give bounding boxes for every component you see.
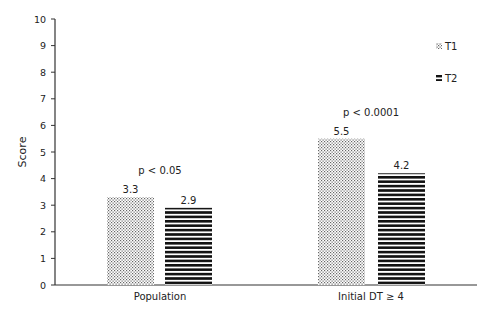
value-label: 5.5 [334, 126, 350, 137]
y-tick-label: 7 [40, 93, 46, 104]
y-tick-label: 5 [40, 147, 46, 158]
legend-t1-label: T1 [444, 41, 457, 52]
bar-chart: 012345678910 3.32.9Populationp < 0.055.5… [0, 0, 499, 313]
bar-t1 [107, 197, 154, 285]
y-tick-label: 8 [40, 67, 46, 78]
y-axis: 012345678910 [34, 14, 55, 291]
bars [107, 139, 425, 285]
value-label: 4.2 [394, 160, 410, 171]
bar-t1 [318, 139, 365, 285]
y-tick-label: 3 [40, 200, 46, 211]
y-axis-label: Score [16, 136, 29, 167]
legend-t1-swatch [436, 43, 442, 49]
bar-t2 [165, 208, 212, 285]
category-label: Population [134, 291, 187, 302]
y-tick-label: 0 [40, 280, 46, 291]
legend-t2-label: T2 [444, 73, 457, 84]
y-tick-label: 4 [40, 173, 46, 184]
category-label: Initial DT ≥ 4 [338, 291, 404, 302]
y-tick-label: 2 [40, 226, 46, 237]
p-value-annotation: p < 0.0001 [343, 107, 399, 118]
legend-t2-swatch [436, 75, 442, 81]
p-value-annotation: p < 0.05 [138, 165, 181, 176]
y-tick-label: 9 [40, 40, 46, 51]
value-label: 3.3 [123, 184, 139, 195]
y-tick-label: 1 [40, 253, 46, 264]
y-tick-label: 6 [40, 120, 46, 131]
y-tick-label: 10 [34, 14, 46, 25]
value-label: 2.9 [181, 195, 197, 206]
bar-t2 [378, 173, 425, 285]
legend: T1T2 [436, 41, 457, 84]
